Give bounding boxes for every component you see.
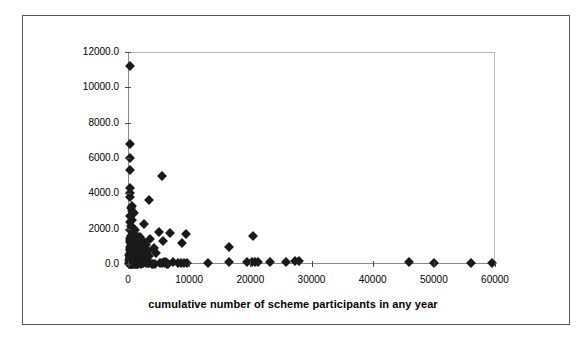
x-axis-tick-mark bbox=[189, 261, 190, 267]
y-axis-tick-mark bbox=[125, 87, 131, 88]
y-axis-tick-label: 2000.0 bbox=[88, 224, 119, 234]
x-axis-tick-label: 60000 bbox=[455, 275, 535, 285]
x-axis-tick-mark bbox=[312, 261, 313, 267]
y-axis-tick-mark bbox=[125, 52, 131, 53]
x-axis-title: cumulative number of scheme participants… bbox=[0, 298, 586, 310]
y-axis-tick-mark bbox=[125, 123, 131, 124]
y-axis-tick-mark bbox=[125, 229, 131, 230]
x-axis-tick-mark bbox=[495, 261, 496, 267]
y-axis-tick-label: 4000.0 bbox=[88, 188, 119, 198]
y-axis-tick-label: 0.0 bbox=[105, 259, 119, 269]
scatter-chart-figure: 0.02000.04000.06000.08000.010000.012000.… bbox=[0, 0, 586, 343]
y-axis-tick-label: 8000.0 bbox=[88, 118, 119, 128]
plot-area bbox=[128, 52, 495, 264]
y-axis-tick-label: 10000.0 bbox=[83, 82, 119, 92]
y-axis-tick-mark bbox=[125, 193, 131, 194]
y-axis-tick-mark bbox=[125, 158, 131, 159]
x-axis-tick-mark bbox=[250, 261, 251, 267]
y-axis-tick-label: 6000.0 bbox=[88, 153, 119, 163]
x-axis-tick-mark bbox=[128, 261, 129, 267]
x-axis-tick-mark bbox=[373, 261, 374, 267]
y-axis-tick-label: 12000.0 bbox=[83, 47, 119, 57]
x-axis-tick-mark bbox=[434, 261, 435, 267]
